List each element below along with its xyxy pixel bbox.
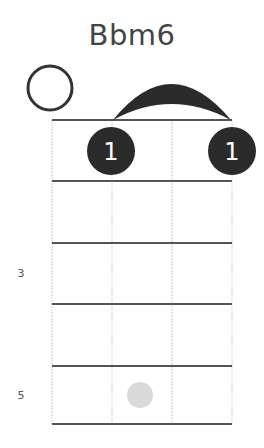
finger-label: 1 [224, 138, 239, 166]
finger-label: 1 [103, 138, 118, 166]
barre-arc-icon [113, 84, 231, 120]
fret-number-5: 5 [13, 389, 29, 402]
chord-diagram: 1 1 [0, 0, 264, 448]
ghost-dot-icon [127, 382, 153, 408]
finger-dot: 1 [87, 127, 135, 175]
strings [52, 120, 232, 424]
fret-number-3: 3 [13, 267, 29, 280]
finger-dot: 1 [208, 127, 256, 175]
frets [52, 120, 232, 424]
open-string-icon [28, 66, 72, 110]
